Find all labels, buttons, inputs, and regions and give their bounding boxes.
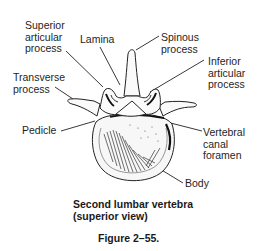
label-superior-articular-process: Superior articular process — [25, 20, 65, 55]
label-vertebral-canal-foramen: Vertebral canal foramen — [203, 127, 245, 162]
label-body: Body — [185, 178, 209, 190]
label-lamina: Lamina — [80, 34, 114, 46]
figure-caption-title: Second lumbar vertebra (superior view) — [73, 198, 193, 222]
label-spinous-process: Spinous process — [161, 32, 199, 55]
label-inferior-articular-process: Inferior articular process — [208, 56, 245, 91]
vertebral-arch — [68, 50, 197, 117]
label-transverse-process: Transverse process — [13, 72, 65, 95]
leader-lamina — [100, 47, 120, 85]
vertebral-body — [92, 114, 174, 181]
label-pedicle: Pedicle — [22, 125, 56, 137]
figure-number: Figure 2–55. — [98, 232, 159, 244]
leader-superior-articular — [66, 51, 103, 87]
leader-pedicle — [61, 121, 95, 131]
leader-spinous — [136, 36, 159, 50]
leader-inferior-articular — [150, 60, 204, 92]
